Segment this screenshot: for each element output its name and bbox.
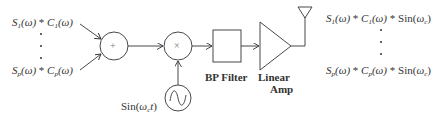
output-first: S1(ω) * C1(ω) * Sin(ωc) [326, 12, 431, 28]
input-op: * [36, 64, 47, 76]
output-op: * [350, 12, 361, 24]
output-omega: (ω) [335, 64, 350, 76]
bp-filter-block [213, 30, 241, 62]
antenna-icon [298, 7, 312, 18]
amp-label-line1: Linear [258, 71, 290, 83]
osc-omega: ω [139, 100, 147, 112]
input-arrow-top [80, 24, 101, 39]
oscillator-label: Sin(ωct) [121, 100, 157, 116]
output-close: ) [427, 64, 431, 76]
output-omega2: (ω) [372, 12, 387, 24]
osc-close: ) [153, 100, 157, 112]
output-w: ω [416, 12, 424, 24]
input-omega2: (ω) [58, 16, 73, 28]
input-omega: (ω) [21, 16, 36, 28]
output-sin: Sin( [398, 64, 416, 76]
output-sin: Sin( [398, 12, 416, 24]
osc-sin: Sin( [121, 100, 139, 112]
input-arrow-bottom [80, 54, 101, 70]
ellipsis-dot [40, 57, 42, 59]
ellipsis-dot [380, 41, 382, 43]
ellipsis-dot [380, 29, 382, 31]
output-op2: * [387, 12, 398, 24]
ellipsis-dot [40, 33, 42, 35]
amp-label-line2: Amp [270, 83, 293, 95]
ellipsis-dot [40, 45, 42, 47]
ellipsis-dot [380, 53, 382, 55]
output-op2: * [387, 64, 398, 76]
input-last: Sp(ω) * Cp(ω) [12, 64, 73, 80]
input-omega2: (ω) [58, 64, 73, 76]
output-omega: (ω) [335, 12, 350, 24]
mult-symbol: × [174, 40, 180, 52]
output-last: Sp(ω) * Cp(ω) * Sin(ωc) [326, 64, 431, 80]
input-first: S1(ω) * C1(ω) [12, 16, 73, 32]
amplifier-block [260, 22, 291, 70]
output-op: * [350, 64, 361, 76]
output-w: ω [416, 64, 424, 76]
output-close: ) [427, 12, 431, 24]
input-op: * [36, 16, 47, 28]
amp-to-antenna-line [291, 17, 305, 46]
output-omega2: (ω) [372, 64, 387, 76]
sum-symbol: + [110, 40, 116, 52]
bp-filter-label: BP Filter [205, 71, 247, 83]
input-omega: (ω) [21, 64, 36, 76]
